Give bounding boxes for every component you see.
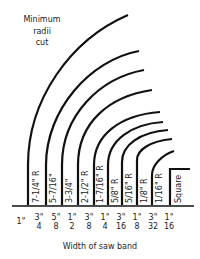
radius-label-1-16: 1/16" R	[155, 173, 164, 203]
width-3-8: 3"8	[82, 213, 96, 231]
radius-label-5-16: 5/16" R	[125, 173, 134, 203]
width-3-32: 3"32	[146, 213, 160, 231]
radius-label-2-1-2: 2-1/2" R	[81, 170, 90, 203]
width-1-2: 1"2	[65, 213, 79, 231]
radius-label-3-3-4: 3-3/4"	[65, 178, 74, 203]
width-1-4: 1"4	[98, 213, 112, 231]
width-1-16: 1"16	[162, 213, 176, 231]
radius-label-5-8: 5/8" R	[111, 178, 120, 203]
width-5-8: 5"8	[49, 213, 63, 231]
radius-label-1-8: 1/8" R	[140, 178, 149, 203]
radius-label-5-7-16: 5-7/16"	[49, 173, 58, 203]
width-1: 1"	[14, 217, 28, 226]
radius-label-7-1-4: 7-1/4" R	[32, 170, 41, 203]
radius-label-1-7-16: 1-7/16" R	[96, 165, 105, 203]
width-1-8: 1"8	[130, 213, 144, 231]
width-3-16: 3"16	[114, 213, 128, 231]
saw-band-radii-diagram: Minimum radii cut	[0, 0, 200, 259]
radius-label-square: Square	[174, 175, 183, 203]
x-axis-label: Width of saw band	[0, 242, 200, 251]
width-3-4: 3"4	[32, 213, 46, 231]
